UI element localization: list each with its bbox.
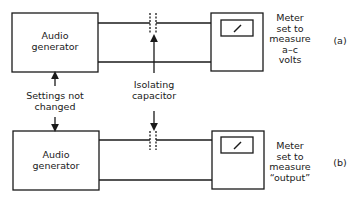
meter-box-a <box>211 13 263 71</box>
meter-caption-line: Meter <box>268 141 312 152</box>
meter-face-icon-b <box>221 137 253 153</box>
generator-label-line: generator <box>13 160 99 171</box>
capacitor-icon-b <box>150 131 156 150</box>
meter-caption-line: measure <box>268 34 312 45</box>
generator-label-line: Audio <box>13 149 99 160</box>
meter-caption-line: measure <box>268 162 312 173</box>
capacitor-note-line: Isolating <box>119 79 189 90</box>
meter-caption-a: Meter set to measure a–c volts <box>268 13 312 66</box>
capacitor-note-line: capacitor <box>119 90 189 101</box>
meter-caption-line: “output” <box>268 173 312 184</box>
meter-caption-b: Meter set to measure “output” <box>268 141 312 183</box>
generator-label-line: Audio <box>12 30 98 41</box>
meter-face-icon-a <box>221 20 253 36</box>
generator-label-b: Audio generator <box>13 149 99 171</box>
meter-caption-line: Meter <box>268 13 312 24</box>
capacitor-icon-a <box>150 13 156 33</box>
meter-caption-line: volts <box>268 55 312 66</box>
settings-note: Settings not changed <box>5 90 105 112</box>
figure-tag-b: (b) <box>326 157 354 168</box>
settings-note-line: changed <box>5 101 105 112</box>
generator-label-line: generator <box>12 41 98 52</box>
settings-note-line: Settings not <box>5 90 105 101</box>
figure-tag-a: (a) <box>326 35 354 46</box>
capacitor-note: Isolating capacitor <box>119 79 189 101</box>
generator-label-a: Audio generator <box>12 30 98 52</box>
meter-box-b <box>212 131 264 189</box>
